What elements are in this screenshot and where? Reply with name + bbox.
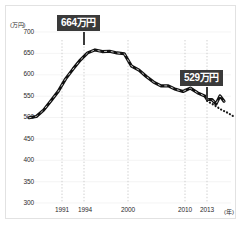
x-axis-ticks: 1991 1994 2000 2010 2013 (年) [0, 0, 243, 227]
callout-latest-value: 529万円 [180, 70, 223, 86]
callout-peak-value: 664万円 [57, 15, 100, 31]
callout-latest-stem [206, 87, 208, 100]
x-tick-label-2010: 2010 [178, 206, 192, 213]
chart-container: (万円) 700 650 600 550 500 450 400 350 300 [0, 0, 243, 227]
x-tick-label-1991: 1991 [55, 206, 69, 213]
x-tick-label-1994: 1994 [78, 206, 92, 213]
callout-peak-stem [83, 32, 85, 45]
x-axis-unit-label: (年) [224, 207, 234, 216]
x-tick-label-2000: 2000 [121, 206, 135, 213]
x-tick-label-2013: 2013 [200, 206, 214, 213]
